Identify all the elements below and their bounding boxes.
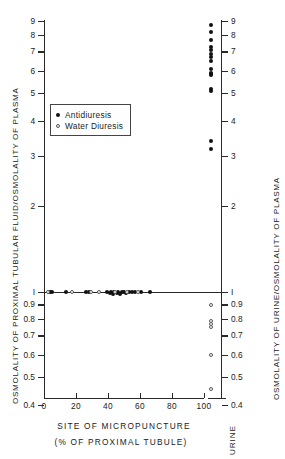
y-tick-label-right-6: 6: [231, 67, 261, 75]
y-tick-label-right-0.5: 0.5: [231, 373, 261, 381]
urine-point-antidiuresis: [209, 73, 213, 77]
urine-point-antidiuresis: [209, 59, 213, 63]
y-tick-right-1: [222, 292, 228, 293]
y-tick-right-0.5: [222, 377, 228, 378]
x-axis-line: [44, 398, 204, 399]
y-tick-label-left-0.5: 0.5: [5, 373, 35, 381]
y-tick-label-right-0.9: 0.9: [231, 300, 261, 308]
y-tick-left-0.5: [38, 377, 44, 378]
y-tick-label-left-1: I: [5, 288, 35, 296]
y-tick-left-0.7: [38, 335, 44, 336]
x-tick-label-40: 40: [95, 401, 121, 411]
y-tick-label-right-3: 3: [231, 152, 261, 160]
y-tick-label-right-7: 7: [231, 47, 261, 55]
left-axis-line: [44, 20, 45, 399]
x-tick-60: [140, 393, 141, 398]
y-tick-left-4: [38, 121, 44, 122]
y-tick-label-right-0.6: 0.6: [231, 351, 261, 359]
y-tick-label-left-9: 9: [5, 17, 35, 25]
y-tick-label-left-3: 3: [5, 152, 35, 160]
figure-root: OSMOLALITY OF PROXIMAL TUBULAR FLUID/OSM…: [0, 0, 285, 459]
y-tick-right-0.8: [222, 319, 228, 320]
x-tick-label-20: 20: [63, 401, 89, 411]
legend-item-water-diuresis: Water Diuresis: [56, 120, 123, 131]
y-tick-left-1: [38, 292, 44, 293]
x-tick-40: [108, 393, 109, 398]
y-tick-label-left-0.6: 0.6: [5, 351, 35, 359]
data-point-antidiuresis: [64, 290, 68, 294]
urine-point-antidiuresis: [209, 30, 213, 34]
x-tick-label-60: 60: [127, 401, 153, 411]
y-tick-label-left-0.8: 0.8: [5, 315, 35, 323]
y-tick-right-3: [222, 156, 228, 157]
urine-axis-baseline: [208, 398, 226, 399]
legend-item-antidiuresis: Antidiuresis: [56, 109, 123, 120]
y-tick-left-3: [38, 156, 44, 157]
x-tick-0: [44, 393, 45, 398]
legend-box: Antidiuresis Water Diuresis: [50, 104, 131, 136]
legend-label-water-diuresis: Water Diuresis: [65, 121, 123, 131]
filled-circle-icon: [56, 113, 60, 117]
urine-point-water-diuresis: [209, 325, 213, 329]
y-tick-right-2: [222, 206, 228, 207]
y-tick-right-4: [222, 121, 228, 122]
y-tick-label-right-5: 5: [231, 89, 261, 97]
y-tick-right-0.6: [222, 355, 228, 356]
y-tick-label-left-5: 5: [5, 89, 35, 97]
data-point-water-diuresis: [89, 290, 93, 294]
urine-point-water-diuresis: [209, 303, 213, 307]
y-tick-label-left-0.9: 0.9: [5, 300, 35, 308]
y-tick-left-0.9: [38, 304, 44, 305]
data-point-water-diuresis: [97, 290, 101, 294]
y-tick-right-8: [222, 35, 228, 36]
y-tick-left-0.6: [38, 355, 44, 356]
urine-point-antidiuresis: [209, 89, 213, 93]
y-tick-left-6: [38, 71, 44, 72]
urine-point-water-diuresis: [209, 353, 213, 357]
y-tick-right-9: [222, 21, 228, 22]
x-axis-title: SITE OF MICROPUNCTURE: [38, 421, 210, 431]
right-axis-title: OSMOLALITY OF URINE/OSMOLALITY OF PLASMA: [272, 177, 281, 400]
data-point-water-diuresis: [70, 290, 74, 294]
y-tick-label-left-4: 4: [5, 117, 35, 125]
urine-column-label: URINE: [228, 425, 237, 455]
y-tick-left-2: [38, 206, 44, 207]
y-tick-left-7: [38, 51, 44, 52]
y-tick-label-right-0.4: 0.4: [231, 401, 261, 409]
data-point-water-diuresis: [46, 290, 50, 294]
y-tick-right-5: [222, 93, 228, 94]
urine-point-antidiuresis: [209, 147, 213, 151]
x-tick-label-0: 0: [31, 401, 57, 411]
y-tick-left-0.8: [38, 319, 44, 320]
y-tick-label-right-8: 8: [231, 31, 261, 39]
y-tick-label-left-0.7: 0.7: [5, 331, 35, 339]
y-tick-label-right-4: 4: [231, 117, 261, 125]
y-tick-right-6: [222, 71, 228, 72]
y-tick-left-5: [38, 93, 44, 94]
y-tick-right-7: [222, 51, 228, 52]
y-tick-label-left-2: 2: [5, 202, 35, 210]
data-point-water-diuresis: [136, 290, 140, 294]
urine-point-antidiuresis: [209, 23, 213, 27]
urine-point-antidiuresis: [209, 139, 213, 143]
x-tick-label-80: 80: [159, 401, 185, 411]
y-tick-label-right-2: 2: [231, 202, 261, 210]
y-tick-right-0.7: [222, 335, 228, 336]
y-tick-label-right-1: I: [231, 288, 261, 296]
open-circle-icon: [56, 124, 60, 128]
data-point-antidiuresis: [148, 290, 152, 294]
y-tick-label-left-7: 7: [5, 47, 35, 55]
y-tick-right-0.4: [222, 405, 228, 406]
x-tick-20: [76, 393, 77, 398]
y-tick-left-8: [38, 35, 44, 36]
urine-point-water-diuresis: [209, 387, 213, 391]
data-point-antidiuresis: [50, 290, 54, 294]
legend-label-antidiuresis: Antidiuresis: [65, 110, 112, 120]
x-tick-100: [204, 393, 205, 398]
y-tick-label-right-0.7: 0.7: [231, 331, 261, 339]
x-tick-label-100: 100: [191, 401, 217, 411]
y-tick-left-9: [38, 21, 44, 22]
urine-point-antidiuresis: [209, 38, 213, 42]
x-axis-subtitle: (% OF PROXIMAL TUBULE): [32, 437, 210, 447]
x-tick-80: [172, 393, 173, 398]
